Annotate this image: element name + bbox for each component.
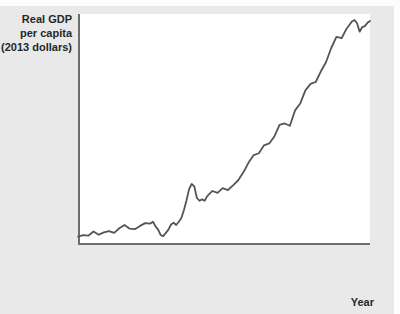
gdp-per-capita-line — [78, 20, 370, 237]
y-axis-title-line-1: Real GDP — [0, 12, 72, 26]
y-axis-title-line-2: per capita — [0, 26, 72, 40]
figure-top-margin — [0, 0, 400, 6]
x-axis-title: Year — [351, 296, 374, 308]
chart-svg — [78, 14, 370, 245]
y-axis-title-line-3: (2013 dollars) — [0, 40, 72, 54]
chart-figure: Real GDP per capita (2013 dollars) Year — [0, 0, 400, 314]
figure-right-margin — [394, 0, 400, 314]
y-axis-title: Real GDP per capita (2013 dollars) — [0, 12, 72, 54]
